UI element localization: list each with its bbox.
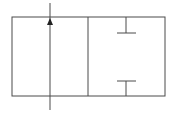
flow-arrow-icon <box>47 3 53 110</box>
blocked-port-bottom-icon <box>117 81 136 96</box>
blocked-port-top-icon <box>117 17 136 33</box>
valve-diagram <box>0 0 176 116</box>
arrowhead-up-icon <box>47 18 53 25</box>
